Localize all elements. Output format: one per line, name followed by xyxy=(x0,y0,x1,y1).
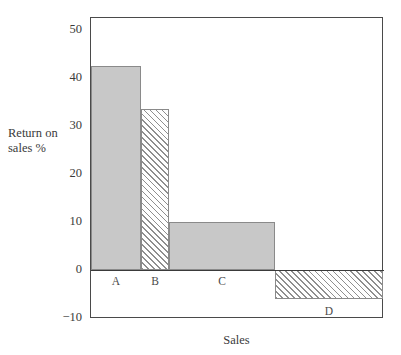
category-label-c: C xyxy=(202,276,242,288)
y-tick-label-50: 50 xyxy=(24,23,82,36)
y-axis-tick-labels: 50 40 30 20 10 0 −10 xyxy=(24,0,82,355)
zero-baseline xyxy=(91,270,384,272)
bar-c xyxy=(169,222,275,270)
y-tick-label-neg10: −10 xyxy=(24,311,82,324)
category-label-b: B xyxy=(135,276,175,288)
y-tick-label-10: 10 xyxy=(24,215,82,228)
bar-chart-figure: 50 40 30 20 10 0 −10 A B C D Return on s… xyxy=(0,0,401,355)
y-axis-title: Return on sales % xyxy=(8,126,86,156)
x-axis-title: Sales xyxy=(90,334,383,347)
category-label-a: A xyxy=(96,276,136,288)
bar-d xyxy=(275,270,383,299)
bar-b xyxy=(141,109,169,270)
bar-a xyxy=(91,66,141,270)
y-axis-title-line-2: sales % xyxy=(8,141,86,156)
y-tick-label-0: 0 xyxy=(24,263,82,276)
category-label-d: D xyxy=(309,306,349,318)
plot-area: A B C D xyxy=(90,17,383,318)
y-tick-label-20: 20 xyxy=(24,167,82,180)
y-tick-label-40: 40 xyxy=(24,71,82,84)
y-axis-title-line-1: Return on xyxy=(8,126,86,141)
